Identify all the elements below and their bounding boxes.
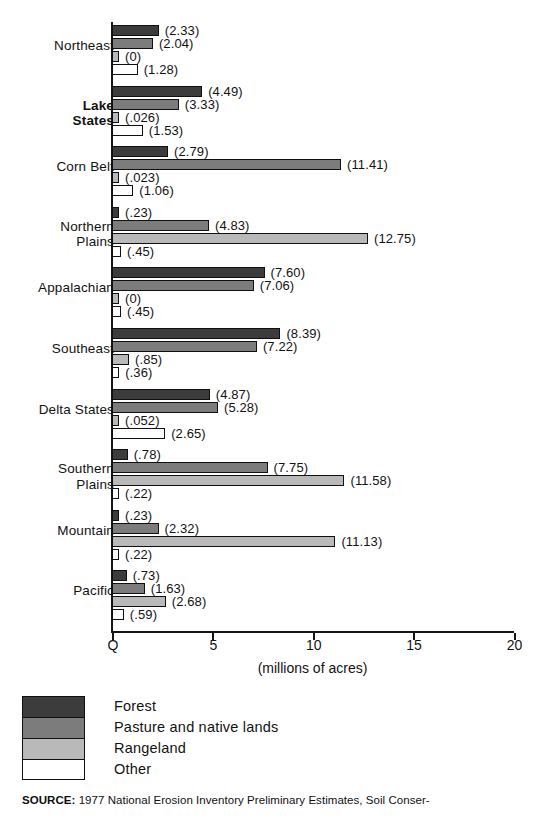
bar[interactable]: [112, 25, 159, 36]
bar[interactable]: [112, 415, 119, 426]
bar[interactable]: [112, 488, 119, 499]
axis-tick-label: 10: [294, 637, 334, 653]
bar[interactable]: [112, 389, 210, 400]
bar[interactable]: [112, 38, 153, 49]
bar[interactable]: [112, 293, 119, 304]
legend-label: Rangeland: [114, 739, 186, 758]
bar[interactable]: [112, 185, 133, 196]
axis-tick-label: 5: [193, 637, 233, 653]
bar-value-label: (.22): [125, 486, 152, 501]
category-label: Northern Plains: [0, 219, 114, 250]
bar[interactable]: [112, 207, 119, 218]
bar[interactable]: [112, 267, 265, 278]
bar-value-label: (.59): [130, 607, 157, 622]
bar-value-label: (0): [125, 49, 141, 64]
bar[interactable]: [112, 146, 168, 157]
bar[interactable]: [112, 233, 368, 244]
legend-swatch: [22, 759, 85, 780]
bar[interactable]: [112, 159, 341, 170]
bar-value-label: (7.06): [260, 278, 295, 293]
bar[interactable]: [112, 172, 119, 183]
legend-swatch: [22, 717, 85, 738]
category-label: Pacific: [0, 583, 114, 599]
legend-label: Forest: [114, 697, 156, 716]
legend-item[interactable]: Rangeland: [22, 738, 522, 759]
bar-value-label: (2.04): [159, 36, 194, 51]
bar-value-label: (.23): [125, 508, 152, 523]
source-prefix: SOURCE:: [22, 794, 75, 806]
legend-item[interactable]: Pasture and native lands: [22, 717, 522, 738]
bar-value-label: (7.22): [263, 339, 298, 354]
legend: ForestPasture and native landsRangelandO…: [22, 696, 522, 780]
bar-value-label: (.22): [125, 547, 152, 562]
bar[interactable]: [112, 536, 335, 547]
bar-value-label: (2.68): [172, 594, 207, 609]
bar-value-label: (4.83): [215, 218, 250, 233]
bar[interactable]: [112, 354, 129, 365]
bar-value-label: (3.33): [185, 97, 220, 112]
category-label: Lake States: [0, 98, 114, 129]
bar[interactable]: [112, 462, 268, 473]
category-label: Corn Belt: [0, 159, 114, 175]
bar[interactable]: [112, 86, 202, 97]
bar-value-label: (1.28): [144, 62, 179, 77]
bar[interactable]: [112, 51, 119, 62]
bar-value-label: (11.13): [341, 534, 382, 549]
category-label: Appalachian: [0, 280, 114, 296]
bar-value-label: (12.75): [374, 231, 416, 246]
bar-chart: Northeast(2.33)(2.04)(0)(1.28)Lake State…: [0, 0, 556, 640]
bar-value-label: (.78): [134, 447, 161, 462]
bar[interactable]: [112, 570, 127, 581]
legend-label: Pasture and native lands: [114, 718, 278, 737]
bar[interactable]: [112, 306, 121, 317]
bar[interactable]: [112, 596, 166, 607]
source-text: 1977 National Erosion Inventory Prelimin…: [79, 794, 430, 806]
bar[interactable]: [112, 449, 128, 460]
bar-value-label: (2.65): [171, 426, 206, 441]
bar-value-label: (.45): [127, 304, 154, 319]
bar-value-label: (7.75): [274, 460, 309, 475]
chart-page: Northeast(2.33)(2.04)(0)(1.28)Lake State…: [0, 0, 556, 817]
bar[interactable]: [112, 220, 209, 231]
bar[interactable]: [112, 99, 179, 110]
category-label: Northeast: [0, 38, 114, 54]
source-note: SOURCE: 1977 National Erosion Inventory …: [22, 793, 552, 807]
legend-swatch: [22, 738, 85, 759]
bar[interactable]: [112, 246, 121, 257]
bar-value-label: (.36): [125, 365, 152, 380]
bar-value-label: (2.79): [174, 144, 209, 159]
bar[interactable]: [112, 609, 124, 620]
bar-value-label: (11.41): [347, 157, 388, 172]
bar[interactable]: [112, 112, 119, 123]
bar[interactable]: [112, 549, 119, 560]
legend-label: Other: [114, 760, 151, 779]
bar-value-label: (5.28): [224, 400, 259, 415]
bar[interactable]: [112, 523, 159, 534]
axis-title: (millions of acres): [111, 660, 514, 676]
bar-value-label: (2.32): [165, 521, 200, 536]
bar[interactable]: [112, 328, 280, 339]
legend-swatch: [22, 696, 85, 717]
bar[interactable]: [112, 341, 257, 352]
bar[interactable]: [112, 64, 138, 75]
bar[interactable]: [112, 510, 119, 521]
bar-value-label: (1.53): [149, 123, 184, 138]
category-label: Southern Plains: [0, 461, 114, 492]
bar[interactable]: [112, 367, 119, 378]
bar[interactable]: [112, 475, 344, 486]
legend-item[interactable]: Forest: [22, 696, 522, 717]
bar[interactable]: [112, 583, 145, 594]
bar[interactable]: [112, 402, 218, 413]
bar-value-label: (11.58): [350, 473, 391, 488]
legend-item[interactable]: Other: [22, 759, 522, 780]
bar[interactable]: [112, 280, 254, 291]
bar-value-label: (.052): [125, 413, 160, 428]
bar[interactable]: [112, 428, 165, 439]
bar[interactable]: [112, 125, 143, 136]
category-label: Delta States: [0, 402, 114, 418]
bar-value-label: (.45): [127, 244, 154, 259]
axis-tick-label: 20: [495, 637, 535, 653]
bar-value-label: (1.06): [139, 183, 174, 198]
bar-value-label: (.23): [125, 205, 152, 220]
axis-tick-label: Q: [93, 637, 133, 653]
